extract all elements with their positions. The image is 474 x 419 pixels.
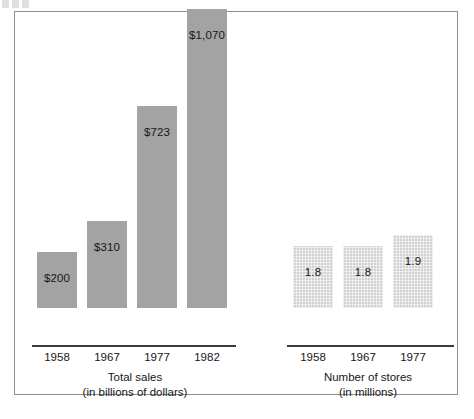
chart-panel-total-sales: $200 $310 $723 $1,070 1958 1967 1977 198… xyxy=(15,12,255,394)
bar-value-total-sales-1958: $200 xyxy=(22,272,92,284)
bar-total-sales-1967[interactable] xyxy=(87,221,127,308)
bar-value-total-sales-1967: $310 xyxy=(72,241,142,253)
caption-total-sales: Total sales (in billions of dollars) xyxy=(15,370,255,400)
bar-value-total-sales-1982: $1,070 xyxy=(172,29,242,41)
x-tick-number-of-stores-1977: 1977 xyxy=(383,351,443,363)
caption-number-of-stores-title: Number of stores xyxy=(277,370,459,385)
bar-value-number-of-stores-1977: 1.9 xyxy=(378,255,448,267)
figure-frame: $200 $310 $723 $1,070 1958 1967 1977 198… xyxy=(14,11,458,395)
bar-value-total-sales-1977: $723 xyxy=(122,126,192,138)
page-header-remnant xyxy=(2,0,32,8)
caption-number-of-stores-units: (in millions) xyxy=(277,385,459,400)
bar-value-number-of-stores-1967: 1.8 xyxy=(328,266,398,278)
bar-number-of-stores-1977[interactable] xyxy=(393,235,433,308)
caption-total-sales-units: (in billions of dollars) xyxy=(15,385,255,400)
x-axis-line-total-sales xyxy=(32,345,236,347)
plot-area-number-of-stores: 1.8 1.8 1.9 1958 1967 1977 Number of sto… xyxy=(277,12,459,394)
chart-panel-number-of-stores: 1.8 1.8 1.9 1958 1967 1977 Number of sto… xyxy=(277,12,459,394)
caption-total-sales-title: Total sales xyxy=(15,370,255,385)
plot-area-total-sales: $200 $310 $723 $1,070 1958 1967 1977 198… xyxy=(15,12,255,394)
x-axis-line-number-of-stores xyxy=(287,345,454,347)
bar-total-sales-1982[interactable] xyxy=(187,9,227,308)
x-tick-total-sales-1982: 1982 xyxy=(177,351,237,363)
caption-number-of-stores: Number of stores (in millions) xyxy=(277,370,459,400)
